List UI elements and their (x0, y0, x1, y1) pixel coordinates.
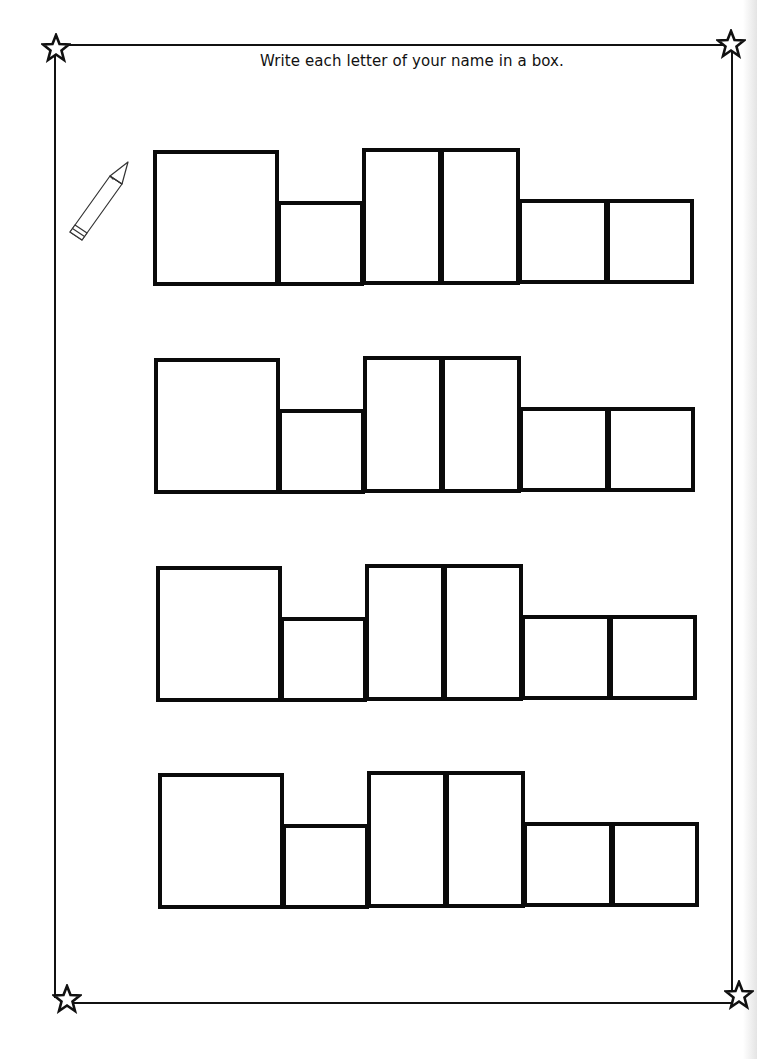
letter-box[interactable] (523, 822, 613, 907)
letter-box[interactable] (277, 201, 364, 286)
letter-box[interactable] (611, 822, 699, 907)
letter-box[interactable] (282, 824, 369, 909)
star-outline-icon (52, 984, 82, 1014)
letter-box[interactable] (609, 615, 697, 700)
frame-bottom-border (68, 1002, 738, 1004)
letter-box[interactable] (363, 356, 443, 493)
letter-box[interactable] (518, 199, 608, 284)
star-outline-icon (724, 980, 754, 1010)
letter-box[interactable] (521, 615, 611, 700)
letter-box[interactable] (367, 771, 447, 908)
letter-box[interactable] (280, 617, 367, 702)
letter-box[interactable] (365, 564, 445, 701)
letter-box[interactable] (158, 773, 284, 909)
letter-box[interactable] (156, 566, 282, 702)
frame-top-border (58, 44, 732, 46)
letter-box[interactable] (154, 358, 280, 494)
frame-left-border (54, 46, 56, 998)
letter-box[interactable] (607, 407, 695, 492)
page-edge-shadow (743, 0, 757, 1059)
letter-box[interactable] (519, 407, 609, 492)
worksheet-instruction: Write each letter of your name in a box. (0, 52, 757, 70)
letter-box[interactable] (440, 148, 520, 285)
pencil-icon (66, 156, 138, 248)
letter-box[interactable] (153, 150, 279, 286)
letter-box[interactable] (441, 356, 521, 493)
frame-right-border (731, 46, 733, 996)
letter-box[interactable] (445, 771, 525, 908)
letter-box[interactable] (606, 199, 694, 284)
letter-box[interactable] (278, 409, 365, 494)
letter-box[interactable] (443, 564, 523, 701)
letter-box[interactable] (362, 148, 442, 285)
